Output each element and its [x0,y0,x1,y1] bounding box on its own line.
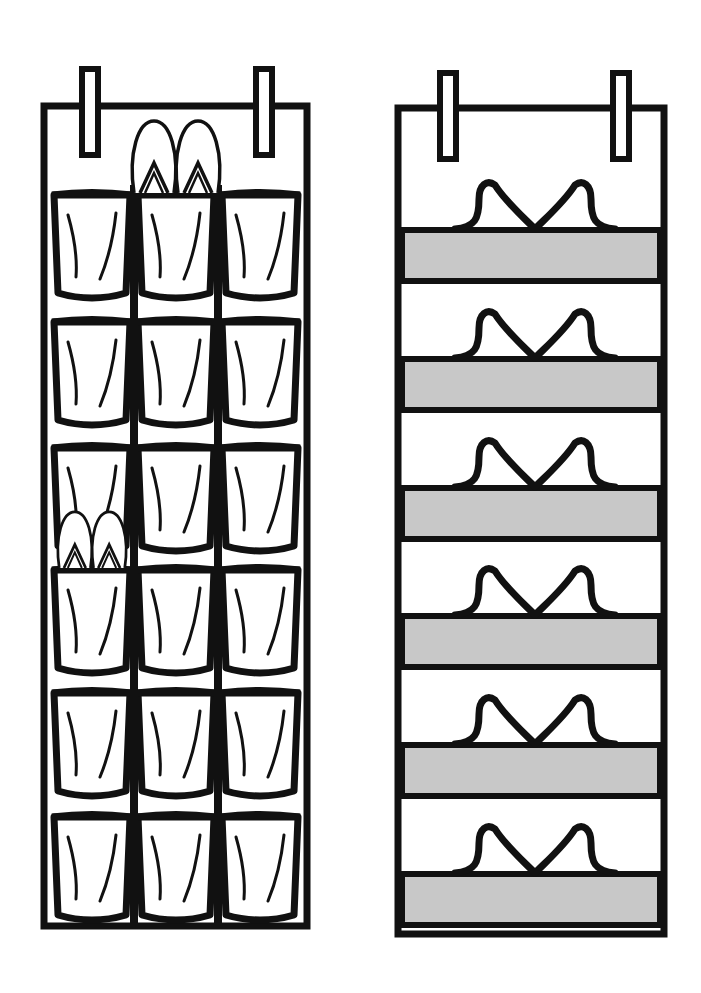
pocket [222,693,298,796]
pocket-hem [52,691,132,694]
pocket-hem [220,568,300,571]
pocket [138,195,214,298]
hook-icon [82,69,98,155]
pocket [54,195,130,298]
shelf [402,874,660,925]
pocket [222,570,298,673]
illustration-canvas: two over-the-door hanging shoe organizer… [0,0,701,993]
flip-flop-sole [176,121,220,193]
pocket-hem [136,320,216,323]
hook-icon [613,73,629,159]
flip-flop-sole [92,512,126,568]
pocket [138,693,214,796]
shelf [402,359,660,410]
hook-icon [440,73,456,159]
shelf-shoe-organizer [398,73,664,934]
pocket-hem [220,446,300,449]
pocket [54,322,130,425]
pocket [138,570,214,673]
pocket-hem [52,446,132,449]
pocket-hem [136,815,216,818]
pocket [222,195,298,298]
shelf [402,230,660,281]
pocket-hem [52,815,132,818]
pocket-hem [52,193,132,196]
flip-flop-sole [132,121,176,193]
pocket [54,693,130,796]
illustration-svg [0,0,701,993]
shelf [402,488,660,539]
pocket-hem [136,446,216,449]
pocket-hem [136,691,216,694]
pocket [138,322,214,425]
shelf [402,745,660,796]
pocket [222,817,298,920]
pocket [54,817,130,920]
pocket-hem [52,320,132,323]
pocket-hem [220,691,300,694]
pocket [54,570,130,673]
pocket [138,817,214,920]
pocket [138,448,214,551]
pocket-shoe-organizer [44,69,307,926]
pocket-hem [220,815,300,818]
hook-icon [256,69,272,155]
pocket-hem [220,320,300,323]
pocket [222,322,298,425]
shelf [402,616,660,667]
pocket-hem [220,193,300,196]
pocket [222,448,298,551]
pocket-hem [136,568,216,571]
flip-flop-sole [58,512,92,568]
